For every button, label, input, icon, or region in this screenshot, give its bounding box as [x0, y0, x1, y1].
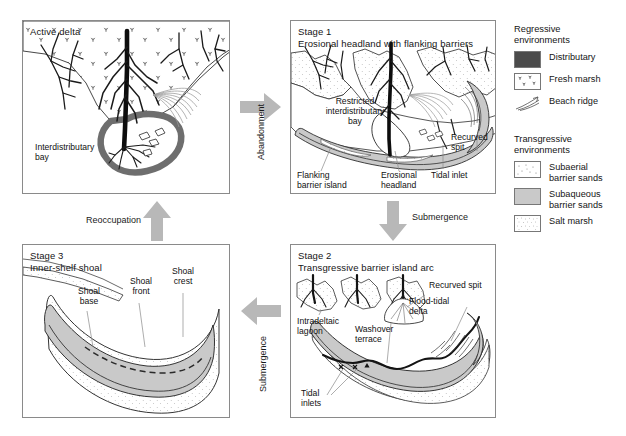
panel-stage3: Stage 3 Inner-shelf shoal Shoal crest Sh… — [22, 244, 230, 418]
swatch-salt-marsh — [514, 215, 541, 232]
label-tidal-inlets: Tidal inlets — [301, 389, 321, 409]
arrow-reoccupation-glyph — [142, 200, 172, 242]
beach-ridge-icon — [514, 95, 541, 112]
subaerial-stipple-icon — [515, 162, 540, 177]
legend-label-beach-ridge: Beach ridge — [549, 95, 598, 107]
label-washover-terrace: Washover terrace — [355, 325, 393, 345]
legend-heading-regressive: Regressive environments — [514, 24, 624, 46]
arrow-label-reoccupation: Reoccupation — [86, 215, 141, 225]
active-delta-illustration — [23, 21, 230, 194]
legend-spacer — [514, 117, 624, 134]
label-flood-tidal-delta: Flood-tidal delta — [409, 297, 449, 317]
legend-item-salt-marsh: Salt marsh — [514, 215, 624, 232]
salt-marsh-stipple-icon — [515, 216, 540, 231]
label-restricted-interdistributary-bay: Restricted interdistributary bay — [309, 97, 401, 126]
label-recurved-spit: Recurved spit — [429, 281, 482, 291]
fresh-marsh-pattern-icon — [515, 74, 540, 89]
arrow-submergence-left-glyph — [240, 296, 282, 326]
arrow-label-abandonment: Abandonment — [256, 104, 266, 160]
arrow-label-submergence-left: Submergence — [258, 336, 268, 392]
legend-label-subaerial-barrier-sands: Subaerial barrier sands — [549, 161, 603, 183]
legend-item-beach-ridge: Beach ridge — [514, 95, 624, 112]
label-erosional-headland: Erosional headland — [381, 171, 417, 191]
arrow-submergence-down — [378, 200, 408, 246]
label-recurved-spit: Recurved spit — [451, 133, 488, 153]
label-tidal-inlet: Tidal inlet — [431, 171, 467, 181]
legend-item-subaerial-barrier-sands: Subaerial barrier sands — [514, 161, 624, 183]
swatch-beach-ridge — [514, 95, 541, 112]
panel-stage2: Stage 2 Transgressive barrier island arc… — [290, 244, 496, 418]
legend-item-fresh-marsh: Fresh marsh — [514, 73, 624, 90]
legend-item-subaqueous-barrier-sands: Subaqueous barrier sands — [514, 188, 624, 210]
legend: Regressive environments Distributary Fre… — [514, 24, 624, 237]
legend-label-distributary: Distributary — [549, 51, 595, 63]
label-flanking-barrier-island: Flanking barrier island — [297, 171, 347, 191]
legend-heading-transgressive: Transgressive environments — [514, 134, 624, 156]
label-interdistributary-bay: Interdistributary bay — [35, 143, 94, 163]
legend-item-distributary: Distributary — [514, 51, 624, 68]
swatch-distributary — [514, 51, 541, 68]
panel-active-delta: Active delta Interdistributary bay — [22, 20, 230, 194]
legend-label-subaqueous-barrier-sands: Subaqueous barrier sands — [549, 188, 603, 210]
label-intradeltaic-lagoon: Intradeltaic lagoon — [297, 317, 339, 337]
swatch-subaqueous-barrier-sands — [514, 188, 541, 205]
swatch-fresh-marsh — [514, 73, 541, 90]
arrow-submergence-down-glyph — [378, 200, 408, 242]
legend-label-fresh-marsh: Fresh marsh — [549, 73, 601, 85]
label-shoal-front: Shoal front — [117, 277, 165, 297]
arrow-label-submergence-down: Submergence — [412, 212, 468, 222]
swatch-subaerial-barrier-sands — [514, 161, 541, 178]
label-shoal-crest: Shoal crest — [159, 267, 207, 287]
legend-label-salt-marsh: Salt marsh — [549, 215, 593, 227]
arrow-reoccupation — [142, 200, 172, 246]
arrow-submergence-left — [240, 296, 282, 330]
panel-stage1: Stage 1 Erosional headland with flanking… — [290, 20, 496, 194]
label-shoal-base: Shoal base — [65, 287, 113, 307]
